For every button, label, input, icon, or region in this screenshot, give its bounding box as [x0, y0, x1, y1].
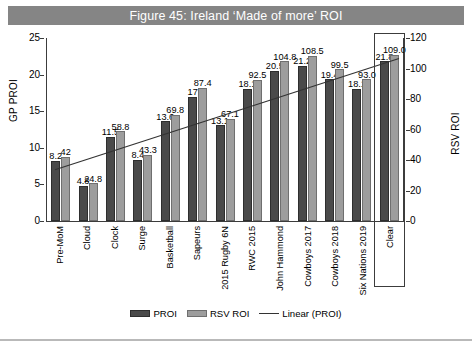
chart-legend: PROIRSV ROILinear (PROI) [0, 305, 472, 321]
left-axis-tick-label: 0 [18, 216, 40, 226]
right-axis-tick-label: 100 [410, 64, 436, 74]
right-axis-tick-label: 0 [410, 216, 436, 226]
right-axis-tickmark [406, 130, 410, 131]
right-axis-tickmark [406, 38, 410, 39]
figure-title-bar: Figure 45: Ireland ‘Made of more’ ROI [8, 6, 464, 25]
plot-area: 8.2424.824.811.558.88.443.313.669.81787.… [46, 38, 404, 221]
left-axis-tickmark [40, 221, 44, 222]
right-axis-title: RSV ROI [450, 99, 461, 169]
left-axis-tick-label: 15 [18, 106, 40, 116]
right-axis-tickmark [406, 191, 410, 192]
right-axis-tick-label: 20 [410, 186, 436, 196]
left-axis-tickmark [40, 148, 44, 149]
legend-item[interactable]: PROI [130, 308, 176, 319]
trendline-linear-proi [47, 38, 403, 221]
right-axis-tick-label: 40 [410, 155, 436, 165]
x-axis-label: Six Nations 2019 [358, 226, 367, 295]
legend-label: RSV ROI [210, 308, 249, 319]
x-axis-label-cell: Surge [129, 224, 157, 302]
x-axis-label-cell: RWC 2015 [239, 224, 267, 302]
x-axis-label-cell: Basketball [156, 224, 184, 302]
x-axis-label: Clear [386, 226, 395, 248]
figure-frame: Figure 45: Ireland ‘Made of more’ ROI 05… [0, 0, 472, 341]
x-axis-baseline [46, 221, 405, 222]
legend-label: PROI [153, 308, 176, 319]
x-axis-labels: Pre-MoMCloudClockSurgeBasketballSapeurs2… [46, 224, 404, 302]
legend-color-swatch-icon [130, 310, 150, 317]
left-axis-tickmark [40, 111, 44, 112]
x-axis-label-cell: Six Nations 2019 [349, 224, 377, 302]
left-axis-tick-label: 5 [18, 179, 40, 189]
right-axis-tickmark [406, 69, 410, 70]
right-axis-tickmark [406, 160, 410, 161]
legend-item[interactable]: Linear (PROI) [259, 308, 341, 319]
left-axis-ticks: 0510152025 [16, 38, 40, 221]
left-axis-tickmark [40, 38, 44, 39]
x-axis-label: 2015 Rugby 6N [220, 226, 229, 290]
legend-label: Linear (PROI) [282, 308, 341, 319]
left-axis-tick-label: 10 [18, 143, 40, 153]
right-axis-ticks: 020406080100120 [410, 38, 438, 221]
left-axis-tick-label: 25 [18, 33, 40, 43]
x-axis-label: Clock [110, 226, 119, 249]
right-axis-tickmark [406, 221, 410, 222]
x-axis-label-cell: Clear [376, 224, 404, 302]
x-axis-label: Cowboys 2018 [331, 226, 340, 287]
legend-color-swatch-icon [187, 310, 207, 317]
x-axis-label: John Hammond [276, 226, 285, 291]
legend-item[interactable]: RSV ROI [187, 308, 249, 319]
right-axis-tick-label: 80 [410, 94, 436, 104]
x-axis-label: Pre-MoM [55, 226, 64, 264]
x-axis-label-cell: Clock [101, 224, 129, 302]
left-axis-tick-label: 20 [18, 70, 40, 80]
x-axis-label-cell: Cowboys 2018 [321, 224, 349, 302]
x-axis-label-cell: Cloud [74, 224, 102, 302]
x-axis-label: Cloud [83, 226, 92, 250]
right-axis-tickmark [406, 99, 410, 100]
left-axis-title: GP PROI [8, 66, 19, 136]
figure-title: Figure 45: Ireland ‘Made of more’ ROI [129, 9, 342, 23]
x-axis-label-cell: 2015 Rugby 6N [211, 224, 239, 302]
left-axis-tickmark [40, 184, 44, 185]
x-axis-label: Sapeurs [193, 226, 202, 260]
left-axis-tickmark [40, 75, 44, 76]
right-axis-tick-label: 120 [410, 33, 436, 43]
x-axis-label: Cowboys 2017 [303, 226, 312, 287]
right-axis-tick-label: 60 [410, 125, 436, 135]
x-axis-label: Basketball [165, 226, 174, 268]
legend-line-swatch-icon [259, 313, 279, 314]
x-axis-label-cell: Pre-MoM [46, 224, 74, 302]
x-axis-label-cell: Cowboys 2017 [294, 224, 322, 302]
x-axis-label-cell: John Hammond [266, 224, 294, 302]
x-axis-label: RWC 2015 [248, 226, 257, 271]
x-axis-label: Surge [138, 226, 147, 251]
x-axis-label-cell: Sapeurs [184, 224, 212, 302]
